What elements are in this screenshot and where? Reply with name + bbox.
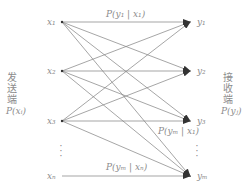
sender-char-1: 发 [6,72,18,83]
output-node-y1: y₁ [197,18,206,27]
sender-probability: P(xᵢ) [6,107,26,116]
sender-char-3: 端 [6,94,18,105]
receiver-char-2: 收 [222,83,234,94]
input-node-x3: x₃ [47,117,56,126]
receiver-label: 接 收 端 [222,72,234,105]
edge-label-ym-x1: P(yₘ | x₁) [158,127,199,136]
receiver-char-3: 端 [222,94,234,105]
input-node-x1: x₁ [47,18,56,27]
input-ellipsis: ··· [58,144,64,159]
receiver-probability: P(yⱼ) [221,107,242,116]
input-node-x2: x₂ [47,67,56,76]
output-ellipsis: ··· [194,144,200,159]
receiver-char-1: 接 [222,72,234,83]
output-node-y2: y₂ [197,67,206,76]
sender-char-2: 送 [6,83,18,94]
edge-label-ym-xn: P(yₘ | xₙ) [106,163,147,172]
sender-label: 发 送 端 [6,72,18,105]
edge-label-y1-x1: P(y₁ | x₁) [106,10,145,19]
input-node-xn: xₙ [47,172,56,181]
output-node-y3: y₃ [197,117,206,126]
output-node-ym: yₘ [197,172,208,181]
